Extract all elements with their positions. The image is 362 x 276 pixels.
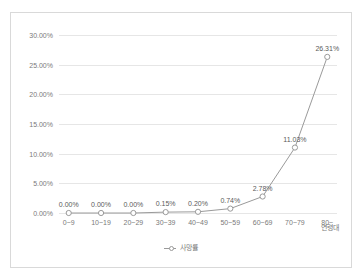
y-axis-tick-label: 0.00% bbox=[33, 210, 53, 217]
data-point-label: 0.00% bbox=[59, 201, 79, 208]
x-axis-tick-label: 40~49 bbox=[188, 219, 208, 228]
data-point-label: 0.74% bbox=[220, 197, 240, 204]
data-point-marker bbox=[131, 210, 136, 215]
data-point-label: 11.03% bbox=[283, 136, 306, 143]
series-line-mortality-rate bbox=[59, 35, 337, 213]
legend-marker-icon bbox=[164, 244, 176, 251]
x-axis-tick-label: 20~29 bbox=[124, 219, 144, 228]
data-point-label: 2.78% bbox=[253, 185, 273, 192]
data-point-marker bbox=[66, 210, 71, 215]
y-axis-tick-label: 5.00% bbox=[33, 180, 53, 187]
data-point-label: 26.31% bbox=[315, 45, 339, 52]
y-axis-tick-label: 15.00% bbox=[29, 121, 53, 128]
chart-legend: 사망률 bbox=[11, 244, 351, 251]
y-axis-tick-label: 20.00% bbox=[29, 91, 53, 98]
data-point-label: 0.00% bbox=[91, 201, 111, 208]
legend-item-label: 사망률 bbox=[180, 244, 198, 251]
data-point-marker bbox=[260, 194, 265, 199]
data-point-marker bbox=[228, 206, 233, 211]
y-axis-tick-label: 25.00% bbox=[29, 61, 53, 68]
y-axis-tick-label: 10.00% bbox=[29, 150, 53, 157]
x-axis-tick-label: 30~39 bbox=[156, 219, 176, 228]
y-axis-tick-label: 30.00% bbox=[29, 32, 53, 39]
data-point-marker bbox=[163, 210, 168, 215]
data-point-marker bbox=[98, 210, 103, 215]
chart-card: 0.00%5.00%10.00%15.00%20.00%25.00%30.00%… bbox=[10, 12, 352, 268]
data-point-label: 0.15% bbox=[156, 200, 176, 207]
x-axis-tick-label: 60~69 bbox=[253, 219, 273, 228]
x-axis-tick-label: 0~9 bbox=[63, 219, 75, 228]
data-point-label: 0.00% bbox=[123, 201, 143, 208]
x-axis-tick-label: 10~19 bbox=[91, 219, 111, 228]
data-point-marker bbox=[292, 145, 297, 150]
x-axis-tick-label: 50~59 bbox=[220, 219, 240, 228]
x-axis-title: 연령대 bbox=[321, 224, 339, 231]
data-point-marker bbox=[195, 209, 200, 214]
data-point-label: 0.20% bbox=[188, 200, 208, 207]
data-point-marker bbox=[325, 54, 330, 59]
x-axis-tick-label: 70~79 bbox=[285, 219, 305, 228]
chart-plot-wrapper: 0.00%5.00%10.00%15.00%20.00%25.00%30.00%… bbox=[11, 13, 351, 267]
plot-area: 0.00%5.00%10.00%15.00%20.00%25.00%30.00%… bbox=[59, 35, 337, 213]
